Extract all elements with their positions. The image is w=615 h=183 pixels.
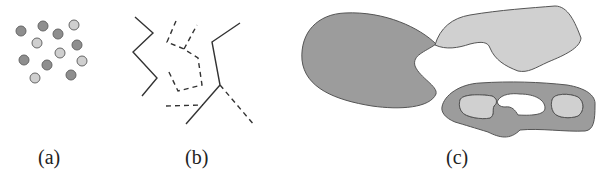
- point-dark: [53, 29, 63, 39]
- dashed-horizontal-line: [166, 105, 203, 106]
- point-light: [77, 56, 87, 66]
- dark-region: [302, 13, 436, 108]
- point-dark: [38, 21, 48, 31]
- point-dark: [16, 26, 26, 36]
- panel-label-c: (c): [446, 146, 468, 169]
- point-dark: [72, 40, 82, 50]
- panel-b-lines: [133, 17, 255, 126]
- solid-tree-line: [212, 23, 240, 85]
- panel-label-b: (b): [185, 146, 208, 169]
- point-light: [30, 73, 40, 83]
- dashed-network-line: [167, 21, 202, 91]
- point-dark: [19, 55, 29, 65]
- solid-zigzag-line: [133, 17, 157, 96]
- light-region: [435, 6, 581, 71]
- dashed-tree-branch: [220, 85, 255, 126]
- solid-tree-trunk: [186, 85, 220, 124]
- point-light: [32, 38, 42, 48]
- dashed-branch-line: [184, 25, 197, 49]
- ring-inner-light-hole: [459, 95, 496, 119]
- panel-label-a: (a): [38, 146, 60, 169]
- ring-inner-light-hole: [551, 94, 582, 117]
- point-light: [55, 48, 65, 58]
- point-dark: [66, 70, 76, 80]
- panel-c-regions: [302, 6, 595, 137]
- panel-a-points: [16, 20, 87, 83]
- point-light: [69, 20, 79, 30]
- figure-canvas: [0, 0, 615, 183]
- point-dark: [42, 60, 52, 70]
